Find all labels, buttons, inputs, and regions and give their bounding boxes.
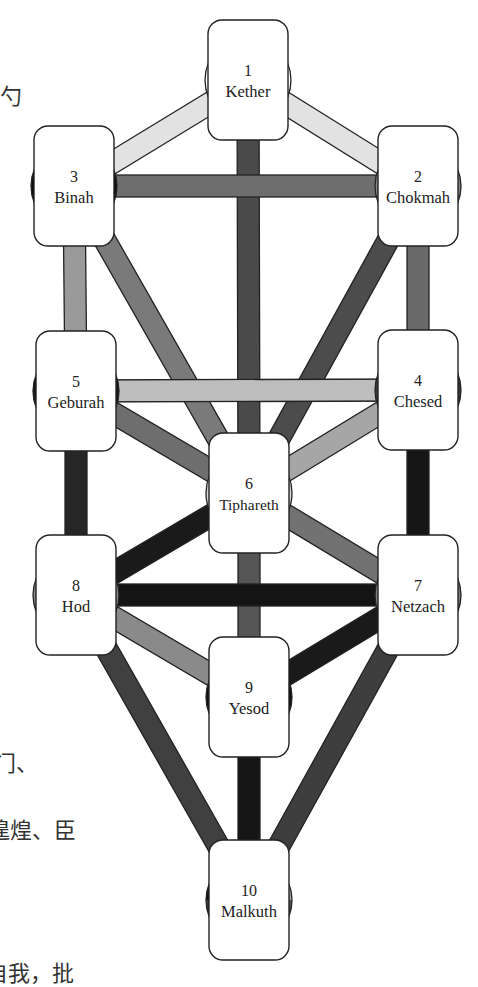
sephirah-chokmah: 2Chokmah <box>378 126 458 246</box>
sephirah-yesod: 9Yesod <box>209 637 289 757</box>
sephirah-chesed: 4Chesed <box>378 330 458 450</box>
sephirah-geburah: 5Geburah <box>36 331 116 451</box>
sephirah-number: 5 <box>72 373 80 390</box>
sephirah-box <box>208 20 288 140</box>
sephirah-number: 4 <box>414 372 422 389</box>
sephirah-number: 3 <box>70 168 78 185</box>
sephirah-name: Chesed <box>394 392 443 411</box>
sephirah-name: Tiphareth <box>219 496 279 513</box>
sephirah-kether: 1Kether <box>208 20 288 140</box>
sephirah-box <box>209 637 289 757</box>
sephirah-number: 10 <box>241 882 257 899</box>
sephirah-number: 1 <box>244 62 252 79</box>
sephirah-box <box>378 126 458 246</box>
sephirah-box <box>36 535 116 655</box>
sephirah-name: Binah <box>54 188 94 207</box>
sephirah-name: Geburah <box>48 393 106 412</box>
path-7-8 <box>76 584 418 606</box>
sephirah-name: Yesod <box>229 699 270 718</box>
sephirah-box <box>378 330 458 450</box>
margin-text-fragment: 自我，批 <box>0 955 74 987</box>
sephirah-box <box>209 433 289 553</box>
sephirah-box <box>378 535 458 655</box>
sephirah-number: 8 <box>72 577 80 594</box>
sephirah-name: Chokmah <box>386 188 451 207</box>
sephirah-name: Netzach <box>391 597 446 616</box>
sephirah-hod: 8Hod <box>36 535 116 655</box>
sephirah-number: 6 <box>245 475 253 492</box>
sephirah-binah: 3Binah <box>34 126 114 246</box>
margin-text-fragment: 勺 <box>0 78 22 110</box>
sephirah-name: Malkuth <box>221 902 278 921</box>
sephirah-malkuth: 10Malkuth <box>209 840 289 960</box>
path-1-6 <box>237 80 260 493</box>
sephirah-number: 9 <box>245 679 253 696</box>
sephirah-netzach: 7Netzach <box>378 535 458 655</box>
sephirah-number: 2 <box>414 168 422 185</box>
sephirah-box <box>36 331 116 451</box>
sephirah-name: Kether <box>226 82 271 101</box>
sephirah-tiphareth: 6Tiphareth <box>209 433 289 553</box>
sephirah-name: Hod <box>62 597 91 616</box>
margin-text-fragment: 门、 <box>0 745 38 777</box>
sephirah-box <box>209 840 289 960</box>
path-2-3 <box>74 175 418 197</box>
margin-text-fragment: 遑煌、臣 <box>0 812 76 844</box>
path-4-5 <box>76 379 418 402</box>
sephirah-number: 7 <box>414 577 422 594</box>
sephirah-box <box>34 126 114 246</box>
